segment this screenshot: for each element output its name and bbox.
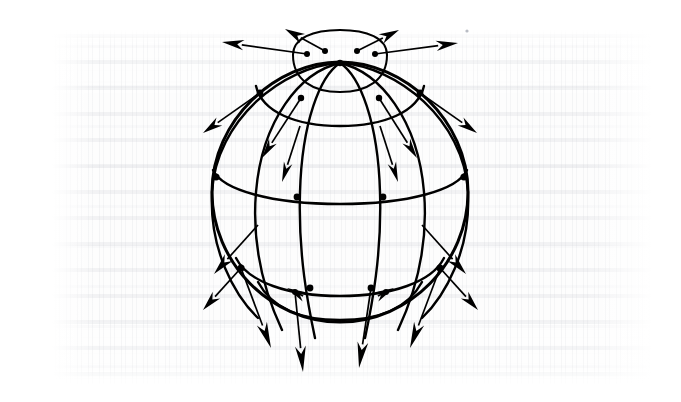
vector-top-left-outer-shaft: [242, 45, 307, 54]
vector-top-right-outer-head: [436, 41, 458, 51]
node-upper-2: [298, 95, 304, 101]
node-upper-1: [257, 90, 264, 97]
vector-upper-left-out-shaft: [218, 93, 260, 123]
vector-upper-right-out-head: [458, 117, 477, 133]
vector-bottom-long-4-shaft: [418, 268, 440, 326]
vector-top-right-upper-shaft: [357, 38, 383, 51]
node-bottom-1: [292, 289, 298, 295]
vector-bottom-long-3-head: [358, 341, 369, 368]
node-pole: [337, 60, 343, 66]
parallel-mid-front: [213, 170, 467, 204]
meridian-6-right-limb: [340, 63, 468, 318]
node-mid-2: [294, 194, 301, 201]
vector-upper-right-out-shaft: [420, 93, 462, 123]
vector-bottom-long-2: [295, 292, 306, 372]
sphere-vector-field-figure: Sphere with latitude-longitude grid and …: [0, 0, 681, 402]
node-polar-1: [304, 51, 310, 57]
node-polar-2: [322, 48, 328, 54]
figure-root: Sphere with latitude-longitude grid and …: [0, 0, 681, 402]
vector-mid-left-down: [282, 126, 300, 182]
vector-mid-left-down-shaft: [288, 126, 300, 165]
node-lower-4: [436, 264, 443, 271]
node-bottom-2: [383, 289, 389, 295]
vector-bottom-long-4: [410, 268, 440, 348]
vector-mid-right-down-shaft: [380, 126, 392, 165]
vector-mid-right-down: [380, 126, 398, 182]
node-upper-4: [417, 90, 424, 97]
node-mid-1: [212, 173, 219, 180]
node-polar-3: [354, 48, 360, 54]
vector-top-left-upper-shaft: [301, 38, 325, 51]
parallel-bottom-front: [258, 282, 422, 320]
node-mid-4: [460, 173, 467, 180]
node-polar-4: [372, 51, 378, 57]
vector-bottom-long-3: [358, 288, 371, 368]
vector-bottom-long-1: [241, 268, 271, 348]
node-lower-2: [307, 285, 314, 292]
vector-bottom-long-2-shaft: [295, 292, 301, 348]
vector-bottom-long-1-head: [257, 322, 271, 348]
vector-low-right-limb-shaft: [422, 225, 453, 259]
vector-top-left-upper-head: [285, 29, 305, 43]
vector-low-left-limb-shaft: [227, 225, 258, 259]
vector-bottom-long-2-head: [295, 346, 306, 372]
vector-bottom-long-4-head: [410, 322, 424, 348]
vector-top-left-outer-head: [222, 40, 245, 50]
node-mid-3: [380, 194, 387, 201]
node-upper-3: [376, 95, 382, 101]
nodes-group: [212, 48, 467, 295]
node-lower-1: [237, 264, 244, 271]
parallels-group: [213, 55, 467, 320]
vector-top-right-outer: [375, 41, 458, 54]
scan-speck-icon: [465, 29, 468, 32]
vector-upper-left-out-head: [203, 117, 222, 133]
node-lower-3: [368, 285, 375, 292]
sphere-outline: [212, 62, 468, 322]
